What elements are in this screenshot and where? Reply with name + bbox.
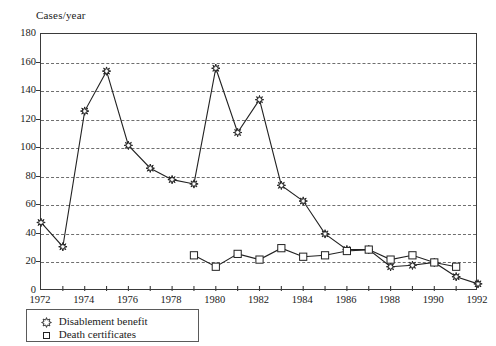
data-point-star — [124, 141, 132, 149]
x-axis-tick-label: 1976 — [107, 295, 147, 306]
y-axis-tick-label: 60 — [10, 199, 36, 210]
y-axis-tick-label: 140 — [10, 85, 36, 96]
y-axis-tick-label: 100 — [10, 142, 36, 153]
plot-area — [40, 33, 477, 290]
y-axis-tick-label: 180 — [10, 28, 36, 39]
x-axis-tick-label: 1990 — [413, 295, 453, 306]
y-axis-labels: 020406080100120140160180 — [0, 33, 36, 290]
data-point-star — [474, 280, 482, 288]
x-axis-tick-label: 1980 — [195, 295, 235, 306]
x-axis-tick-label: 1982 — [239, 295, 279, 306]
data-point-square — [256, 256, 263, 263]
data-point-star — [59, 243, 67, 251]
data-point-square — [343, 247, 350, 254]
y-axis-title: Cases/year — [36, 9, 86, 21]
chart-figure: Cases/year 020406080100120140160180 1972… — [0, 0, 496, 346]
data-point-star — [37, 218, 45, 226]
data-point-star — [190, 180, 198, 188]
square-marker-icon — [39, 327, 53, 341]
data-point-square — [212, 263, 219, 270]
data-point-square — [365, 246, 372, 253]
data-point-square — [409, 252, 416, 259]
data-point-star — [168, 175, 176, 183]
data-point-star — [299, 197, 307, 205]
x-axis-tick-label: 1978 — [151, 295, 191, 306]
x-axis-tick-label: 1986 — [326, 295, 366, 306]
x-axis-tick-label: 1992 — [457, 295, 496, 306]
chart-legend: Disablement benefit Death certificates — [26, 309, 199, 342]
data-point-square — [300, 253, 307, 260]
data-point-square — [453, 263, 460, 270]
series-lines — [41, 34, 478, 291]
data-point-star — [102, 67, 110, 75]
y-axis-tick-label: 120 — [10, 113, 36, 124]
data-point-star — [146, 164, 154, 172]
data-point-star — [386, 263, 394, 271]
data-point-square — [321, 252, 328, 259]
y-axis-tick-label: 160 — [10, 56, 36, 67]
x-axis-tick-label: 1974 — [64, 295, 104, 306]
x-axis-tick-label: 1984 — [282, 295, 322, 306]
legend-item-death-certificates: Death certificates — [39, 326, 136, 340]
data-point-star — [321, 230, 329, 238]
x-axis-tick-label: 1988 — [370, 295, 410, 306]
data-point-star — [408, 261, 416, 269]
data-point-square — [387, 256, 394, 263]
data-point-star — [277, 181, 285, 189]
data-point-star — [81, 107, 89, 115]
data-point-star — [452, 273, 460, 281]
data-point-square — [190, 252, 197, 259]
y-axis-tick-label: 40 — [10, 228, 36, 239]
data-point-square — [278, 245, 285, 252]
legend-item-disablement-benefit: Disablement benefit — [39, 313, 148, 327]
data-point-star — [233, 128, 241, 136]
legend-label: Death certificates — [59, 327, 136, 341]
data-point-square — [431, 259, 438, 266]
data-point-square — [234, 250, 241, 257]
data-point-star — [255, 95, 263, 103]
y-axis-tick-label: 80 — [10, 171, 36, 182]
x-axis-tick-label: 1972 — [20, 295, 60, 306]
y-axis-tick-label: 20 — [10, 256, 36, 267]
x-axis-labels: 1972197419761978198019821984198619881990… — [40, 293, 477, 309]
data-point-star — [212, 64, 220, 72]
